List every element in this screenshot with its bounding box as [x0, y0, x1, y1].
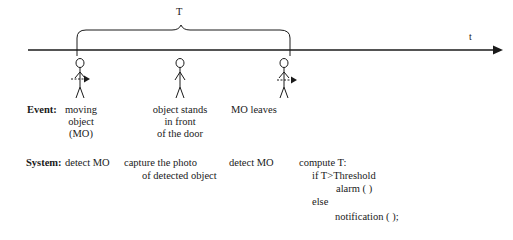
system-label-line: detect MO [229, 157, 274, 169]
event-label-line: object stands [130, 104, 230, 116]
person-standing-icon [175, 59, 185, 99]
event-label-line: (MO) [61, 128, 101, 140]
arrow-head-icon [493, 46, 503, 55]
system-heading: System: [26, 157, 62, 169]
person-leaving-icon [277, 59, 297, 99]
person-moving-icon [71, 59, 90, 99]
time-axis [28, 46, 503, 55]
code-line: notification ( ); [335, 211, 399, 223]
code-line: if T>Threshold [312, 170, 376, 182]
code-line: else [312, 196, 328, 208]
time-axis-label: t [469, 31, 472, 43]
event-label-line: MO leaves [231, 104, 277, 116]
interval-brace [77, 25, 290, 56]
system-label-line: of detected object [142, 170, 217, 182]
code-line: alarm ( ) [336, 183, 372, 195]
system-label-line: capture the photo [124, 157, 197, 169]
event-label-line: object [61, 116, 101, 128]
code-line: compute T: [299, 157, 346, 169]
event-label-line: in front [130, 116, 230, 128]
interval-label: T [176, 6, 182, 18]
event-label-line: of the door [130, 128, 230, 140]
event-heading: Event: [27, 104, 57, 116]
event-label-line: moving [61, 104, 101, 116]
system-label-line: detect MO [65, 157, 110, 169]
